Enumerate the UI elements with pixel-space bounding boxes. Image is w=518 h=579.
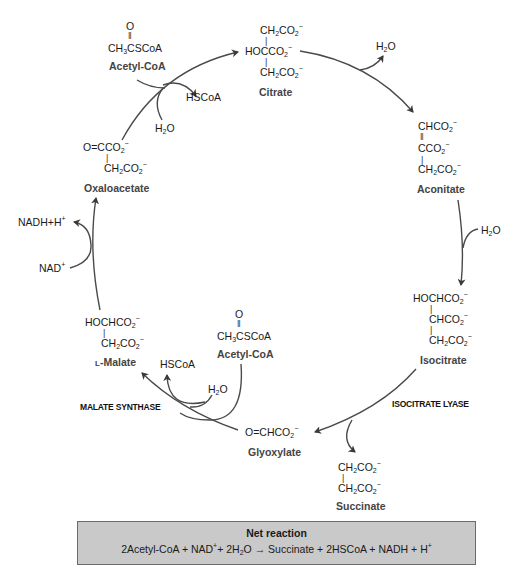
- arrow-h2o-bottom-in: [190, 395, 212, 407]
- formula-line: HOCHCO2−: [413, 292, 468, 305]
- double-bond: ‖: [420, 133, 424, 142]
- formula-line: CH2CO2−: [429, 334, 472, 347]
- molecule-name: Acetyl-CoA: [217, 348, 274, 360]
- enzyme-isocitrate-lyase: ISOCITRATE LYASE: [392, 399, 469, 409]
- net-reaction-equation: 2Acetyl-CoA + NAD++ 2H2O → Succinate + 2…: [78, 542, 475, 556]
- arrow-malate-to-oxaloacetate: [93, 198, 100, 310]
- net-reaction-box: Net reaction 2Acetyl-CoA + NAD++ 2H2O → …: [77, 521, 476, 565]
- formula-line: CHCO2−: [418, 120, 457, 133]
- molecule-name: Isocitrate: [420, 354, 467, 366]
- molecule-name: Succinate: [336, 500, 386, 512]
- arrow-succinate-out: [347, 420, 355, 452]
- molecule-name: Aconitate: [417, 183, 465, 195]
- formula-line: CHCO2−: [429, 313, 468, 326]
- molecule-name: L-Malate: [95, 356, 136, 368]
- formula-line: CCO2−: [418, 142, 449, 155]
- h2o-citrate-label: H2O: [376, 40, 396, 52]
- enzyme-malate-synthase: MALATE SYNTHASE: [80, 402, 160, 412]
- nadh-label: NADH+H+: [18, 216, 66, 228]
- molecule-name: Citrate: [259, 86, 292, 98]
- hscoa-top-label: HSCoA: [186, 91, 221, 103]
- formula-line: CH3CSCoA: [217, 330, 271, 343]
- formula-line: CH2CO2−: [418, 163, 461, 176]
- molecule-name: Acetyl-CoA: [109, 60, 166, 72]
- formula-line: HOCHCO2−: [85, 316, 140, 329]
- h2o-top-label: H2O: [155, 122, 175, 134]
- molecule-name: Oxaloacetate: [84, 182, 149, 194]
- formula-line: CH2CO2−: [338, 461, 381, 474]
- arrow-acetylcoa-in: [137, 80, 165, 88]
- nad-label: NAD+: [39, 262, 65, 274]
- arrow-h2o-in-aconitate: [463, 229, 478, 248]
- arrow-h2o-out-citrate: [360, 56, 383, 70]
- arrow-nad-in: [70, 245, 91, 268]
- formula-line: CH2CO2−: [338, 482, 381, 495]
- formula-line: CH2CO2−: [260, 66, 303, 79]
- arrow-nadh-out: [74, 222, 91, 245]
- formula-line: HOCCO2−: [245, 45, 292, 58]
- arrow-citrate-to-aconitate: [300, 51, 413, 112]
- formula-line: O=CHCO2−: [245, 426, 298, 439]
- net-reaction-title: Net reaction: [78, 527, 475, 540]
- arrow-aconitate-to-isocitrate: [458, 200, 462, 285]
- molecule-name: Glyoxylate: [248, 446, 301, 458]
- formula-line: CH3CSCoA: [108, 42, 162, 55]
- formula-line: CH2CO2−: [104, 162, 147, 175]
- double-bond: ‖: [237, 320, 241, 329]
- formula-line: CH2CO2−: [101, 337, 144, 350]
- arrow-hscoa-bottom-out: [167, 375, 205, 403]
- double-bond: ‖: [128, 32, 132, 41]
- h2o-bottom-label: H2O: [208, 383, 228, 395]
- h2o-aconitate-label: H2O: [481, 224, 501, 236]
- hscoa-bottom-label: HSCoA: [160, 358, 195, 370]
